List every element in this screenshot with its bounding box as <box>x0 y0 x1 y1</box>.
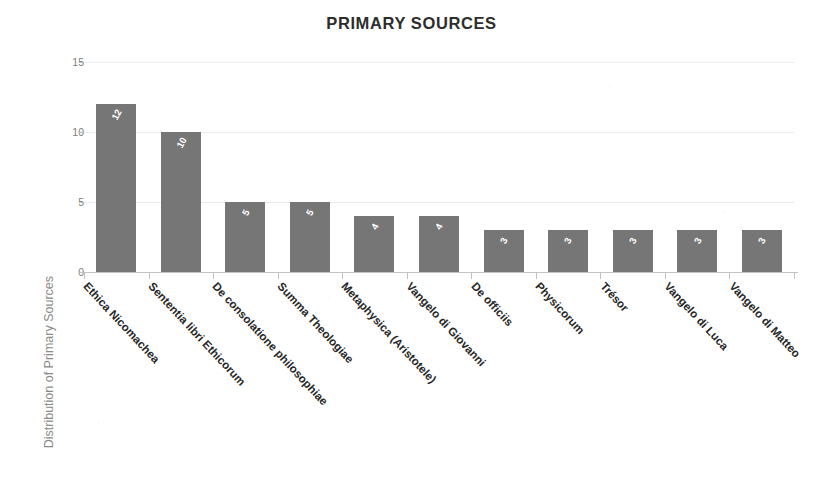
bar: 12 <box>96 104 136 272</box>
x-axis-tick-mark <box>213 272 214 279</box>
bar: 5 <box>225 202 265 272</box>
bar: 3 <box>484 230 524 272</box>
x-axis-tick-mark <box>471 272 472 279</box>
bar: 5 <box>290 202 330 272</box>
bar-value-label: 4 <box>419 221 459 232</box>
x-axis-tick-mark <box>84 272 85 279</box>
y-axis-ticks: 151050 <box>50 62 84 274</box>
x-axis-tick-mark <box>407 272 408 279</box>
bar: 4 <box>354 216 394 272</box>
x-axis-tick-mark <box>794 272 795 279</box>
x-axis-category-label: De officiis <box>469 280 515 328</box>
x-axis-category-label: De consolatione philosophiae <box>211 280 331 407</box>
bar-value-label: 4 <box>354 221 394 232</box>
x-axis-tick-mark <box>729 272 730 279</box>
bar: 3 <box>548 230 588 272</box>
bar: 3 <box>613 230 653 272</box>
bar: 4 <box>419 216 459 272</box>
plot-area: 1210554433333 <box>84 62 794 272</box>
chart-title: PRIMARY SOURCES <box>0 14 823 33</box>
y-axis-title-container: Distribution of Primary Sources <box>26 58 48 276</box>
y-axis-title: Distribution of Primary Sources <box>42 276 56 448</box>
bar: 10 <box>161 132 201 272</box>
x-axis-category-label: Trésor <box>598 280 631 314</box>
x-axis-tick-mark <box>342 272 343 279</box>
x-axis-tick-mark <box>278 272 279 279</box>
bar: 3 <box>677 230 717 272</box>
bar-value-label: 3 <box>742 235 782 246</box>
x-axis-tick-mark <box>149 272 150 279</box>
bar: 3 <box>742 230 782 272</box>
x-axis-tick-mark <box>536 272 537 279</box>
bar-series: 1210554433333 <box>84 62 794 272</box>
bar-value-label: 12 <box>96 109 136 120</box>
bar-value-label: 3 <box>677 235 717 246</box>
bar-value-label: 5 <box>225 207 265 218</box>
x-axis-category-label: Physicorum <box>533 280 587 336</box>
x-axis-tick-mark <box>665 272 666 279</box>
x-axis-tick-mark <box>600 272 601 279</box>
bar-value-label: 3 <box>484 235 524 246</box>
x-axis-category-label: Vangelo di Matteo <box>727 280 802 360</box>
bar-value-label: 10 <box>161 137 201 148</box>
x-axis-line <box>80 272 798 273</box>
bar-value-label: 3 <box>613 235 653 246</box>
bar-value-label: 5 <box>290 207 330 218</box>
x-axis-category-label: Vangelo di Luca <box>662 280 730 352</box>
x-axis-labels: Ethica NicomacheaSententia libri Ethicor… <box>84 280 800 410</box>
bar-chart-figure: PRIMARY SOURCES Distribution of Primary … <box>0 0 823 480</box>
bar-value-label: 3 <box>548 235 588 246</box>
